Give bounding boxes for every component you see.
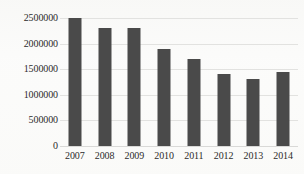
x-axis-tick-label: 2012: [209, 149, 239, 162]
bar[interactable]: [68, 18, 81, 146]
x-axis-tick-label: 2008: [90, 149, 120, 162]
y-axis-tick-label: 500000: [2, 115, 58, 125]
y-axis-tick-label: 0: [2, 141, 58, 151]
bar[interactable]: [187, 59, 200, 146]
x-axis-tick-label: 2013: [239, 149, 269, 162]
bar-slot: [179, 18, 209, 146]
x-axis-line: [60, 146, 298, 147]
y-axis-tick-label: 2500000: [2, 13, 58, 23]
x-axis-tick-label: 2014: [268, 149, 298, 162]
bar-slot: [239, 18, 269, 146]
bar-slot: [60, 18, 90, 146]
bar[interactable]: [158, 49, 171, 146]
x-axis: 20072008200920102011201220132014: [60, 149, 298, 169]
bar-slot: [268, 18, 298, 146]
y-axis: 05000001000000150000020000002500000: [0, 0, 58, 174]
x-axis-tick-label: 2011: [179, 149, 209, 162]
bar-series: [60, 18, 298, 146]
bar-slot: [149, 18, 179, 146]
x-axis-tick-label: 2007: [60, 149, 90, 162]
bar-slot: [120, 18, 150, 146]
bar[interactable]: [217, 74, 230, 146]
x-axis-tick-label: 2010: [149, 149, 179, 162]
bar[interactable]: [247, 79, 260, 146]
bar-slot: [90, 18, 120, 146]
y-axis-tick-label: 1000000: [2, 90, 58, 100]
y-axis-tick-label: 2000000: [2, 39, 58, 49]
bar[interactable]: [98, 28, 111, 146]
bar-chart-screenshot: 05000001000000150000020000002500000 2007…: [0, 0, 304, 174]
bar[interactable]: [128, 28, 141, 146]
y-axis-tick-label: 1500000: [2, 64, 58, 74]
x-axis-tick-label: 2009: [120, 149, 150, 162]
bar[interactable]: [277, 72, 290, 146]
bar-slot: [209, 18, 239, 146]
